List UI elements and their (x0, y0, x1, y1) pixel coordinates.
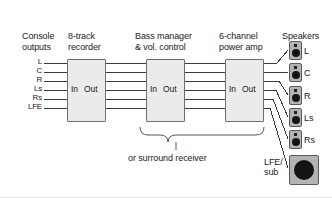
brace-top (140, 127, 264, 142)
wire-recorder-c (106, 72, 146, 73)
speaker-label-l: L (304, 46, 309, 56)
wire-recorder-rs (106, 99, 146, 100)
recorder-out-label: Out (84, 85, 97, 94)
wire-amp-to-speaker-rs (264, 99, 288, 139)
speaker-label-rs: Rs (304, 135, 315, 145)
woofer-icon (292, 138, 300, 146)
wire-recorder-l (106, 63, 146, 64)
channel-label-rs: Rs (20, 94, 42, 102)
wire-bassmgr-lfe (185, 108, 225, 109)
speaker-r (289, 86, 302, 105)
recorder-in-label: In (71, 85, 78, 94)
speaker-label-r: R (304, 91, 310, 101)
wire-bassmgr-rs (185, 99, 225, 100)
brace-label-or-surround-receiver: or surround receiver (128, 153, 207, 163)
subwoofer-lfe (289, 155, 319, 185)
wire-console-r (44, 81, 67, 82)
wire-console-rs (44, 99, 67, 100)
header-bass-manager: Bass manager & vol. control (135, 31, 217, 53)
tweeter-icon (294, 66, 297, 69)
channel-label-l: L (20, 58, 42, 66)
header-6-channel-power-amp: 6-channel power amp (219, 31, 281, 53)
wire-bassmgr-r (185, 81, 225, 82)
woofer-icon (292, 49, 300, 57)
speaker-c (289, 63, 302, 82)
speaker-ls (289, 108, 302, 127)
speaker-l (289, 41, 302, 60)
wire-recorder-ls (106, 90, 146, 91)
tweeter-icon (294, 44, 297, 47)
wire-console-l (44, 63, 67, 64)
wire-bassmgr-ls (185, 90, 225, 91)
poweramp-in-label: In (229, 85, 236, 94)
subwoofer-label: LFE/ sub (264, 157, 290, 177)
tweeter-icon (294, 111, 297, 114)
wire-recorder-r (106, 81, 146, 82)
tweeter-icon (294, 133, 297, 136)
bassmgr-out-label: Out (163, 85, 176, 94)
woofer-icon (292, 71, 300, 79)
speaker-label-ls: Ls (304, 113, 313, 123)
wire-amp-to-speaker-r (264, 81, 288, 95)
channel-label-ls: Ls (20, 85, 42, 93)
bassmgr-in-label: In (150, 85, 157, 94)
woofer-icon (294, 160, 314, 180)
tweeter-icon (294, 89, 297, 92)
channel-label-lfe: LFE (14, 103, 42, 111)
speaker-rs (289, 130, 302, 149)
poweramp-out-label: Out (242, 85, 255, 94)
channel-label-r: R (20, 76, 42, 84)
wire-amp-to-speaker-ls (264, 90, 288, 117)
speaker-label-c: C (304, 68, 310, 78)
header-8-track-recorder: 8-track recorder (68, 31, 126, 53)
wire-console-ls (44, 90, 67, 91)
channel-label-c: C (20, 67, 42, 75)
woofer-icon (292, 116, 300, 124)
signal-flow-diagram: Console outputs 8-track recorder Bass ma… (0, 0, 332, 198)
wire-console-lfe (44, 108, 67, 109)
woofer-icon (292, 94, 300, 102)
wire-recorder-lfe (106, 108, 146, 109)
wire-bassmgr-l (185, 63, 225, 64)
wire-bassmgr-c (185, 72, 225, 73)
header-console-outputs: Console outputs (22, 31, 68, 53)
wire-console-c (44, 72, 67, 73)
